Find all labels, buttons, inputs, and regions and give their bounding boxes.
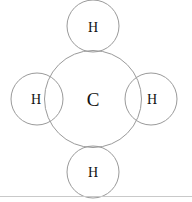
hydrogen-top-label: H [88, 20, 98, 35]
carbon-center-label: C [87, 89, 100, 110]
hydrogen-right-label: H [147, 92, 157, 107]
molecule-diagram: H H H H C [0, 0, 192, 202]
molecule-canvas: H H H H C [0, 0, 192, 202]
hydrogen-bottom-label: H [88, 165, 98, 180]
hydrogen-left-label: H [31, 92, 41, 107]
